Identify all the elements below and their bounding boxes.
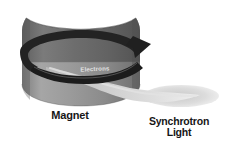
synchrotron-magnet-figure: Electrons Magnet Synchrotron Light [0,0,226,163]
synchrotron-light-label-line2: Light [167,126,192,138]
synchrotron-light-label-line1: Synchrotron [149,115,209,127]
synchrotron-light-label: Synchrotron Light [140,116,218,139]
magnet-label: Magnet [30,110,110,122]
